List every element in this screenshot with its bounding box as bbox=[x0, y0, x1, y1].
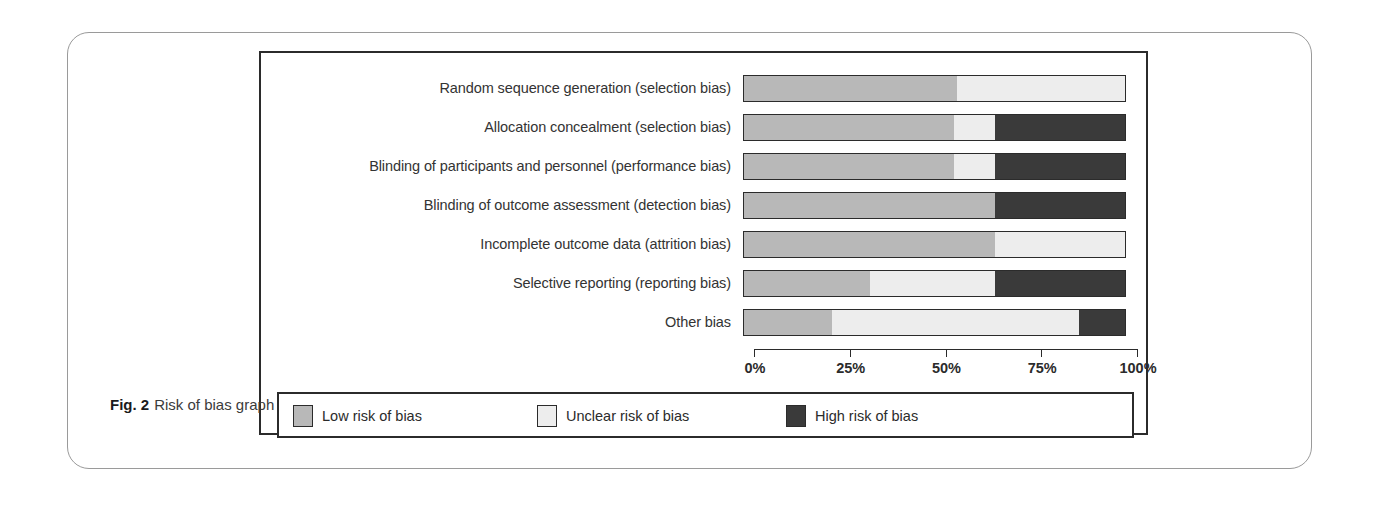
bar-segment-low bbox=[744, 115, 954, 140]
legend-swatch-unclear bbox=[537, 405, 557, 427]
bar-row-label: Other bias bbox=[261, 314, 743, 330]
bar-segment-unclear bbox=[954, 115, 996, 140]
figure-caption-text: Risk of bias graph bbox=[154, 396, 274, 413]
bar-row: Random sequence generation (selection bi… bbox=[261, 73, 1146, 103]
bar-segment-unclear bbox=[832, 310, 1080, 335]
bar-segment-unclear bbox=[957, 76, 1125, 101]
legend-item: High risk of bias bbox=[786, 401, 918, 431]
bar-segment-high bbox=[995, 115, 1125, 140]
bar-row: Incomplete outcome data (attrition bias) bbox=[261, 229, 1146, 259]
bar-segment-high bbox=[1079, 310, 1125, 335]
legend-swatch-high bbox=[786, 405, 806, 427]
chart-panel: Random sequence generation (selection bi… bbox=[259, 51, 1148, 435]
axis-tick bbox=[946, 349, 947, 357]
bar-track bbox=[743, 270, 1126, 297]
legend-label: High risk of bias bbox=[815, 408, 918, 424]
bar-track bbox=[743, 75, 1126, 102]
bar-row-label: Random sequence generation (selection bi… bbox=[261, 80, 743, 96]
bar-segment-low bbox=[744, 232, 995, 257]
bar-track bbox=[743, 231, 1126, 258]
figure-number: Fig. 2 bbox=[110, 396, 149, 413]
bar-segment-high bbox=[995, 193, 1125, 218]
axis-tick-label: 25% bbox=[836, 360, 865, 376]
bar-segment-low bbox=[744, 310, 832, 335]
bar-segment-high bbox=[995, 271, 1125, 296]
bar-segment-unclear bbox=[954, 154, 996, 179]
bar-track bbox=[743, 153, 1126, 180]
bar-row: Allocation concealment (selection bias) bbox=[261, 112, 1146, 142]
bar-segment-unclear bbox=[870, 271, 996, 296]
bar-segment-high bbox=[995, 154, 1125, 179]
axis-tick bbox=[1137, 349, 1138, 357]
bar-row-label: Blinding of outcome assessment (detectio… bbox=[261, 197, 743, 213]
bar-segment-unclear bbox=[995, 232, 1125, 257]
axis-tick bbox=[850, 349, 851, 357]
chart-legend: Low risk of biasUnclear risk of biasHigh… bbox=[277, 392, 1134, 438]
bar-segment-low bbox=[744, 76, 957, 101]
bar-track bbox=[743, 309, 1126, 336]
bar-segment-low bbox=[744, 154, 954, 179]
axis-tick-label: 100% bbox=[1119, 360, 1156, 376]
bar-row-label: Selective reporting (reporting bias) bbox=[261, 275, 743, 291]
axis-tick bbox=[1041, 349, 1042, 357]
axis-tick-label: 75% bbox=[1028, 360, 1057, 376]
bar-segment-low bbox=[744, 193, 995, 218]
bar-row-label: Incomplete outcome data (attrition bias) bbox=[261, 236, 743, 252]
bar-row: Other bias bbox=[261, 307, 1146, 337]
legend-label: Low risk of bias bbox=[322, 408, 422, 424]
figure-caption: Fig. 2Risk of bias graph bbox=[110, 396, 274, 413]
legend-item: Unclear risk of bias bbox=[537, 401, 689, 431]
axis-tick bbox=[754, 349, 755, 357]
x-axis: 0%25%50%75%100% bbox=[755, 349, 1138, 395]
axis-tick-label: 50% bbox=[932, 360, 961, 376]
axis-tick-label: 0% bbox=[745, 360, 766, 376]
legend-label: Unclear risk of bias bbox=[566, 408, 689, 424]
bar-row: Selective reporting (reporting bias) bbox=[261, 268, 1146, 298]
bar-segment-low bbox=[744, 271, 870, 296]
legend-item: Low risk of bias bbox=[293, 401, 422, 431]
bar-row: Blinding of participants and personnel (… bbox=[261, 151, 1146, 181]
bar-row-label: Allocation concealment (selection bias) bbox=[261, 119, 743, 135]
bar-track bbox=[743, 114, 1126, 141]
bar-row: Blinding of outcome assessment (detectio… bbox=[261, 190, 1146, 220]
bar-track bbox=[743, 192, 1126, 219]
legend-swatch-low bbox=[293, 405, 313, 427]
bar-row-label: Blinding of participants and personnel (… bbox=[261, 158, 743, 174]
